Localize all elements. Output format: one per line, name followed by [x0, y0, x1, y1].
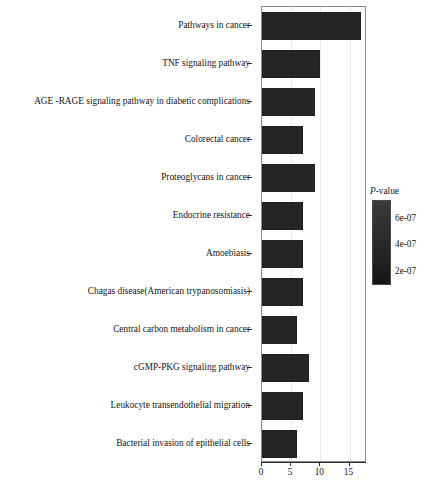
category-label: Amoebiasis: [206, 248, 252, 259]
category-label-row: AGE -RAGE signaling pathway in diabetic …: [0, 82, 252, 120]
x-tick-mark: [319, 462, 320, 466]
x-tick-label: 5: [288, 467, 293, 478]
category-label: Proteoglycans in cancer: [161, 172, 252, 183]
category-label-row: Bacterial invasion of epithelial cells: [0, 424, 252, 462]
category-tick-mark: [247, 139, 252, 140]
bar: [262, 164, 315, 191]
bar: [262, 392, 303, 419]
category-tick-mark: [247, 329, 252, 330]
x-tick-mark: [290, 462, 291, 466]
bar: [262, 126, 303, 153]
plot-area: [261, 6, 366, 462]
legend-title-suffix: -value: [376, 186, 399, 196]
category-label-row: cGMP-PKG signaling pathway: [0, 348, 252, 386]
category-label-row: Central carbon metabolism in cancer: [0, 310, 252, 348]
bar: [262, 430, 297, 457]
category-label: Colorectal cancer: [185, 134, 252, 145]
category-label: Pathways in cancer: [178, 20, 252, 31]
category-label-row: Proteoglycans in cancer: [0, 158, 252, 196]
axis-line: [261, 462, 366, 463]
category-label: Leukocyte transendothelial migration: [111, 400, 252, 411]
category-label-row: Amoebiasis: [0, 234, 252, 272]
category-tick-mark: [247, 291, 252, 292]
bar: [262, 202, 303, 229]
category-label: TNF signaling pathway: [162, 58, 252, 69]
category-label: cGMP-PKG signaling pathway: [134, 362, 252, 373]
bar: [262, 354, 309, 381]
category-label-row: Endocrine resistance: [0, 196, 252, 234]
category-label-row: Colorectal cancer: [0, 120, 252, 158]
category-label-row: TNF signaling pathway: [0, 44, 252, 82]
category-axis: Pathways in cancerTNF signaling pathwayA…: [0, 6, 252, 462]
x-tick-mark: [349, 462, 350, 466]
legend-tick-label: 6e-07: [395, 212, 416, 223]
category-tick-mark: [247, 63, 252, 64]
category-tick-mark: [247, 405, 252, 406]
bar: [262, 240, 303, 267]
legend-tick-label: 4e-07: [395, 239, 416, 250]
category-label-row: Leukocyte transendothelial migration: [0, 386, 252, 424]
category-tick-mark: [247, 101, 252, 102]
bar: [262, 88, 315, 115]
legend-colorbar: [372, 200, 391, 285]
category-tick-mark: [247, 25, 252, 26]
category-tick-mark: [247, 253, 252, 254]
bar: [262, 50, 320, 77]
category-label-row: Pathways in cancer: [0, 6, 252, 44]
x-tick-label: 0: [259, 467, 264, 478]
category-tick-mark: [247, 177, 252, 178]
category-label: Bacterial invasion of epithelial cells: [116, 438, 252, 449]
gridline-15: [350, 7, 351, 461]
x-tick-label: 15: [344, 467, 353, 478]
legend: P-value 6e-074e-072e-07: [370, 186, 425, 291]
category-label: Chagas disease(American trypanosomiasis): [88, 286, 252, 297]
bar: [262, 278, 303, 305]
category-tick-mark: [247, 215, 252, 216]
bar: [262, 316, 297, 343]
category-label-row: Chagas disease(American trypanosomiasis): [0, 272, 252, 310]
x-tick-mark: [261, 462, 262, 466]
gridline-10: [320, 7, 321, 461]
category-tick-mark: [247, 443, 252, 444]
category-tick-mark: [247, 367, 252, 368]
value-axis: 051015: [261, 462, 366, 486]
kegg-pathway-enrichment-bar-chart: Pathways in cancerTNF signaling pathwayA…: [0, 0, 425, 493]
category-label: AGE -RAGE signaling pathway in diabetic …: [34, 96, 252, 107]
x-tick-label: 10: [315, 467, 324, 478]
bar: [262, 12, 361, 39]
legend-tick-label: 2e-07: [395, 265, 416, 276]
category-label: Endocrine resistance: [173, 210, 252, 221]
category-label: Central carbon metabolism in cancer: [113, 324, 252, 335]
legend-title: P-value: [370, 186, 399, 197]
